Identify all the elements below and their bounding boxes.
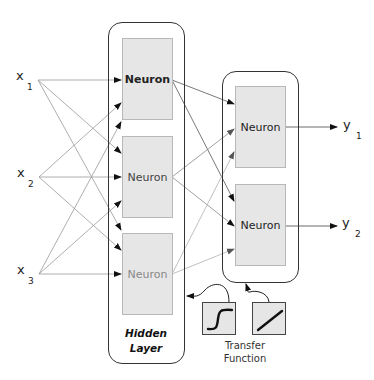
- transfer-arrows: [187, 284, 269, 302]
- output-y1-symbol: y: [343, 117, 351, 132]
- connections-layer: [0, 0, 374, 380]
- hidden-label-line1: Hidden: [108, 326, 184, 341]
- transfer-function-label: Transfer Function: [205, 339, 285, 365]
- neuron-label: Neuron: [128, 268, 168, 281]
- neuron-label: Neuron: [128, 171, 168, 184]
- hidden-neuron-3: Neuron: [122, 233, 173, 315]
- output-y2-subscript: 2: [355, 229, 361, 239]
- linear-icon: [253, 303, 287, 336]
- hidden-label-line2: Layer: [108, 341, 184, 356]
- input-x2-subscript: 2: [28, 179, 34, 189]
- neural-network-diagram: Neuron Neuron Neuron Hidden Layer Neuron…: [0, 0, 374, 380]
- input-x3-symbol: x: [17, 262, 25, 277]
- sigmoid-icon: [203, 303, 237, 336]
- transfer-label-line2: Function: [205, 352, 285, 365]
- hidden-neuron-1: Neuron: [122, 38, 173, 120]
- input-x3-subscript: 3: [28, 276, 34, 286]
- linear-function-box: [252, 302, 286, 335]
- input-x1-subscript: 1: [27, 82, 33, 92]
- neuron-label: Neuron: [125, 73, 170, 86]
- output-neuron-1: Neuron: [235, 86, 286, 168]
- output-y1-subscript: 1: [356, 131, 362, 141]
- neuron-label: Neuron: [241, 121, 281, 134]
- neuron-label: Neuron: [241, 219, 281, 232]
- hidden-layer-label: Hidden Layer: [108, 326, 184, 356]
- transfer-label-line1: Transfer: [205, 339, 285, 352]
- sigmoid-function-box: [202, 302, 236, 335]
- hidden-neuron-2: Neuron: [122, 136, 173, 218]
- output-neuron-2: Neuron: [235, 184, 286, 266]
- input-x1-symbol: x: [16, 68, 24, 83]
- output-y2-symbol: y: [342, 215, 350, 230]
- input-x2-symbol: x: [17, 165, 25, 180]
